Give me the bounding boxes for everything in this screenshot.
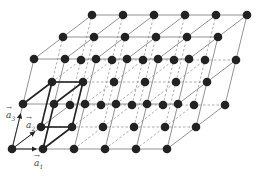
atom	[150, 11, 159, 20]
atom	[143, 100, 152, 109]
atom	[121, 33, 130, 42]
atom	[161, 123, 170, 132]
atom	[201, 56, 210, 65]
atom	[214, 33, 223, 42]
vector-label-a3: a3	[6, 111, 15, 122]
atom	[192, 123, 201, 132]
atom	[108, 56, 117, 65]
atom	[92, 55, 101, 64]
atom	[159, 101, 168, 110]
atom	[119, 11, 128, 20]
vector-label-a2: a2	[26, 121, 35, 132]
atom	[8, 145, 17, 154]
atom	[59, 33, 68, 42]
atom	[243, 11, 252, 20]
primitive-unit-cell	[23, 82, 83, 149]
atom	[130, 123, 139, 132]
atom	[163, 145, 172, 154]
atom	[232, 56, 241, 65]
atom	[30, 55, 39, 64]
atom	[37, 123, 46, 132]
atom	[221, 101, 230, 110]
atom	[141, 78, 150, 87]
atom	[185, 55, 194, 64]
atom	[181, 11, 190, 20]
vector-label-subscript: 3	[11, 115, 15, 122]
atom	[128, 101, 137, 110]
atom	[152, 33, 161, 42]
atom	[101, 145, 110, 154]
atom	[203, 78, 212, 87]
atom	[123, 55, 132, 64]
atom	[190, 101, 199, 110]
vector-label-subscript: 1	[39, 163, 43, 170]
atom	[79, 78, 88, 87]
atom	[170, 56, 179, 65]
atom	[66, 101, 75, 110]
atom	[172, 78, 181, 87]
atom	[110, 78, 119, 87]
atom	[50, 100, 59, 109]
atom	[183, 33, 192, 42]
atom	[77, 56, 86, 65]
atom	[88, 11, 97, 20]
atom	[70, 145, 79, 154]
crystal-lattice-diagram	[0, 0, 256, 176]
atom	[174, 100, 183, 109]
atom	[132, 145, 141, 154]
vector-label-subscript: 2	[31, 125, 35, 132]
atom	[81, 100, 90, 109]
atom	[154, 55, 163, 64]
atom	[212, 11, 221, 20]
atom	[112, 100, 121, 109]
atom	[97, 101, 106, 110]
atom	[139, 56, 148, 65]
atom	[61, 55, 70, 64]
atom	[68, 123, 77, 132]
atom	[19, 100, 28, 109]
atom	[99, 123, 108, 132]
atom	[90, 33, 99, 42]
vector-label-a1: a1	[34, 159, 43, 170]
atom	[48, 78, 57, 87]
